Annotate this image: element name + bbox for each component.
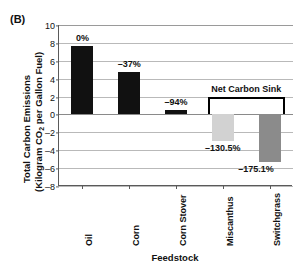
gridline-10: 10 xyxy=(59,25,293,26)
x-tick-mark xyxy=(129,185,130,189)
bar-value-label-oil: 0% xyxy=(76,33,89,43)
y-tick-label: 10 xyxy=(33,21,55,31)
y-tick-mark xyxy=(56,43,60,44)
y-tick-mark xyxy=(56,151,60,152)
y-tick-label: 8 xyxy=(33,39,55,49)
y-tick-label: –6 xyxy=(33,164,55,174)
x-tick-mark xyxy=(270,185,271,189)
bar-value-label-switchgrass: –175.1% xyxy=(238,164,274,174)
y-tick-mark xyxy=(56,61,60,62)
y-tick-label: –4 xyxy=(33,146,55,156)
figure-panel-b: (B) Total Carbon Emissions (Kilogram CO2… xyxy=(0,0,304,276)
x-axis-title: Feedstock xyxy=(58,252,292,263)
y-tick-label: 4 xyxy=(33,75,55,85)
gridline-8: 8 xyxy=(59,43,293,44)
y-tick-label: 0 xyxy=(33,110,55,120)
y-tick-mark xyxy=(56,79,60,80)
bar-value-label-corn: –37% xyxy=(118,59,141,69)
x-category-label-oil: Oil xyxy=(85,234,94,246)
bar-corn xyxy=(118,72,140,114)
x-tick-mark xyxy=(223,185,224,189)
x-tick-mark xyxy=(82,185,83,189)
gridline-6: 6 xyxy=(59,61,293,62)
x-category-label-switchgrass: Switchgrass xyxy=(273,193,282,246)
x-category-label-miscanthus: Miscanthus xyxy=(226,196,235,246)
bar-oil xyxy=(71,46,93,114)
bar-miscanthus xyxy=(212,114,234,141)
x-tick-mark xyxy=(176,185,177,189)
y-tick-mark xyxy=(56,169,60,170)
bar-switchgrass xyxy=(259,114,281,161)
net-carbon-sink-label: Net Carbon Sink xyxy=(211,84,281,94)
y-axis-title-line-1: Total Carbon Emissions xyxy=(22,75,32,183)
bar-value-label-corn-stover: –94% xyxy=(164,97,187,107)
x-category-label-corn: Corn xyxy=(132,225,141,246)
bar-corn-stover xyxy=(165,110,187,114)
x-category-label-corn-stover: Corn Stover xyxy=(179,194,188,246)
plot-area: 1086420–2–4–6–80%–37%–94%–130.5%–175.1%N… xyxy=(58,25,292,186)
y-tick-mark xyxy=(56,133,60,134)
y-tick-label: –2 xyxy=(33,128,55,138)
y-tick-mark xyxy=(56,25,60,26)
y-tick-mark xyxy=(56,97,60,98)
y-tick-mark xyxy=(56,186,60,187)
y-tick-mark xyxy=(56,115,60,116)
y-tick-label: –8 xyxy=(33,182,55,192)
bar-value-label-miscanthus: –130.5% xyxy=(205,143,241,153)
gridline-4: 4 xyxy=(59,79,293,80)
net-carbon-sink-bracket xyxy=(208,97,285,115)
y-tick-label: 6 xyxy=(33,57,55,67)
y-tick-label: 2 xyxy=(33,93,55,103)
